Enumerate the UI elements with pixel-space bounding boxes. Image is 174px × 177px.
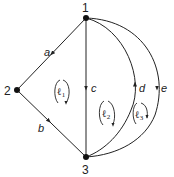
edge-a	[17, 18, 86, 90]
edge-b	[17, 90, 86, 157]
loop-l3-label: ℓ3	[135, 109, 144, 122]
edge-a-label: a	[44, 46, 50, 58]
edge-b-label: b	[38, 122, 44, 134]
graph-canvas: 1 2 3 a b c d e ℓ1 ℓ2 ℓ3	[0, 0, 174, 177]
loop-l2: ℓ2	[99, 101, 114, 126]
node-2	[14, 87, 20, 93]
edge-e-label: e	[161, 82, 167, 94]
node-3-label: 3	[82, 163, 89, 177]
node-1-label: 1	[82, 1, 89, 15]
loop-l1-label: ℓ1	[57, 86, 66, 99]
edge-d-label: d	[139, 82, 146, 94]
loop-l3: ℓ3	[133, 103, 147, 124]
node-1	[83, 15, 89, 21]
edge-e	[86, 18, 159, 157]
graph-diagram: 1 2 3 a b c d e ℓ1 ℓ2 ℓ3	[0, 0, 174, 177]
node-3	[83, 154, 89, 160]
node-2-label: 2	[4, 84, 11, 98]
loop-l2-label: ℓ2	[102, 108, 111, 121]
edge-c-label: c	[91, 82, 97, 94]
loop-l1: ℓ1	[55, 80, 69, 104]
